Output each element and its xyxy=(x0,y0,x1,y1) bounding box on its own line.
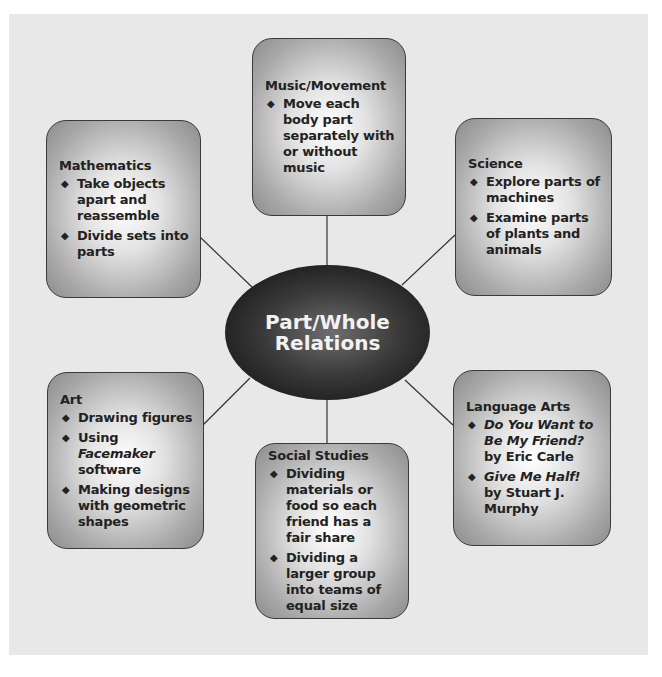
list-item: ◆ Making designs with geometric shapes xyxy=(60,482,193,530)
diamond-bullet-icon: ◆ xyxy=(270,466,278,482)
node-title: Music/Movement xyxy=(265,78,395,94)
node-items: ◆ Do You Want to Be My Friend? by Eric C… xyxy=(466,417,600,517)
diamond-bullet-icon: ◆ xyxy=(61,176,69,192)
node-items: ◆ Take objects apart and reassemble ◆ Di… xyxy=(59,176,190,260)
central-concept-line1: Part/Whole xyxy=(265,312,390,333)
list-item: ◆ Give Me Half! by Stuart J. Murphy xyxy=(466,469,600,517)
diamond-bullet-icon: ◆ xyxy=(468,469,476,485)
connector-mathematics xyxy=(200,237,253,288)
diamond-bullet-icon: ◆ xyxy=(470,210,478,226)
connector-art xyxy=(203,378,250,425)
list-item: ◆ Dividing materials or food so each fri… xyxy=(268,466,398,546)
diamond-bullet-icon: ◆ xyxy=(470,174,478,190)
node-language-arts: Language Arts ◆ Do You Want to Be My Fri… xyxy=(453,370,611,546)
node-title: Art xyxy=(60,392,193,408)
node-music-movement: Music/Movement ◆ Move each body part sep… xyxy=(252,38,406,216)
node-title: Language Arts xyxy=(466,399,600,415)
list-item: ◆ Drawing figures xyxy=(60,410,193,426)
diamond-bullet-icon: ◆ xyxy=(267,96,275,112)
node-items: ◆ Move each body part separately with or… xyxy=(265,96,395,176)
connector-science xyxy=(402,235,455,285)
list-item: ◆ Move each body part separately with or… xyxy=(265,96,395,176)
node-mathematics: Mathematics ◆ Take objects apart and rea… xyxy=(46,120,201,298)
node-items: ◆ Explore parts of machines ◆ Examine pa… xyxy=(468,174,601,258)
list-item: ◆ Using Facemaker software xyxy=(60,430,193,478)
node-title: Science xyxy=(468,156,601,172)
list-item: ◆ Take objects apart and reassemble xyxy=(59,176,190,224)
central-concept-line2: Relations xyxy=(275,333,381,354)
connector-language-arts xyxy=(405,380,453,425)
node-title: Social Studies xyxy=(268,448,398,464)
node-science: Science ◆ Explore parts of machines ◆ Ex… xyxy=(455,118,612,296)
node-art: Art ◆ Drawing figures ◆ Using Facemaker … xyxy=(47,372,204,549)
node-items: ◆ Drawing figures ◆ Using Facemaker soft… xyxy=(60,410,193,530)
diamond-bullet-icon: ◆ xyxy=(62,430,70,446)
central-concept-oval: Part/Whole Relations xyxy=(225,265,430,400)
list-item: ◆ Do You Want to Be My Friend? by Eric C… xyxy=(466,417,600,465)
list-item: ◆ Divide sets into parts xyxy=(59,228,190,260)
diamond-bullet-icon: ◆ xyxy=(62,482,70,498)
diamond-bullet-icon: ◆ xyxy=(468,417,476,433)
list-item: ◆ Explore parts of machines xyxy=(468,174,601,206)
node-title: Mathematics xyxy=(59,158,190,174)
list-item: ◆ Examine parts of plants and animals xyxy=(468,210,601,258)
diamond-bullet-icon: ◆ xyxy=(61,228,69,244)
node-items: ◆ Dividing materials or food so each fri… xyxy=(268,466,398,614)
diamond-bullet-icon: ◆ xyxy=(270,550,278,566)
list-item: ◆ Dividing a larger group into teams of … xyxy=(268,550,398,614)
diamond-bullet-icon: ◆ xyxy=(62,410,70,426)
node-social-studies: Social Studies ◆ Dividing materials or f… xyxy=(255,443,409,619)
